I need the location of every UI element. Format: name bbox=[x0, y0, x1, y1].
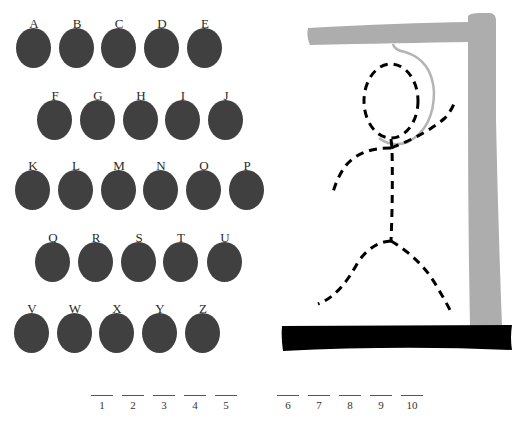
gallows-base bbox=[282, 325, 512, 351]
letter-key-p[interactable]: P bbox=[229, 159, 265, 217]
letter-key-a[interactable]: A bbox=[16, 17, 52, 75]
letter-key-u[interactable]: U bbox=[207, 231, 243, 289]
letter-key-w[interactable]: W bbox=[57, 302, 93, 360]
letter-button-disc[interactable] bbox=[143, 170, 178, 210]
letter-button-disc[interactable] bbox=[101, 28, 136, 68]
figure-right-leg bbox=[391, 241, 450, 310]
slot-number: 2 bbox=[122, 399, 144, 411]
letter-button-disc[interactable] bbox=[35, 242, 70, 282]
letter-button-disc[interactable] bbox=[207, 242, 242, 282]
figure-head bbox=[364, 64, 418, 138]
letter-key-y[interactable]: Y bbox=[142, 302, 178, 360]
word-slot-5: 5 bbox=[215, 390, 237, 416]
letter-key-z[interactable]: Z bbox=[185, 302, 221, 360]
letter-button-disc[interactable] bbox=[144, 28, 179, 68]
slot-blank-line bbox=[91, 395, 113, 396]
letter-button-disc[interactable] bbox=[58, 170, 93, 210]
slot-blank-line bbox=[401, 395, 423, 396]
slot-blank-line bbox=[370, 395, 392, 396]
letter-button-disc[interactable] bbox=[123, 100, 158, 140]
slot-number: 8 bbox=[339, 399, 361, 411]
letter-button-disc[interactable] bbox=[80, 100, 115, 140]
gallows-beam bbox=[307, 22, 470, 45]
letter-button-disc[interactable] bbox=[15, 170, 50, 210]
word-slot-4: 4 bbox=[184, 390, 206, 416]
letter-key-d[interactable]: D bbox=[144, 17, 180, 75]
letter-button-disc[interactable] bbox=[121, 242, 156, 282]
figure-left-leg bbox=[318, 241, 391, 304]
letter-key-h[interactable]: H bbox=[123, 89, 159, 147]
letter-button-disc[interactable] bbox=[59, 28, 94, 68]
letter-key-l[interactable]: L bbox=[58, 159, 94, 217]
word-slot-3: 3 bbox=[153, 390, 175, 416]
letter-key-s[interactable]: S bbox=[121, 231, 157, 289]
slot-number: 10 bbox=[401, 399, 423, 411]
letter-button-disc[interactable] bbox=[229, 170, 264, 210]
slot-blank-line bbox=[153, 395, 175, 396]
slot-number: 6 bbox=[277, 399, 299, 411]
letter-key-r[interactable]: R bbox=[78, 231, 114, 289]
letter-button-disc[interactable] bbox=[16, 28, 51, 68]
letter-button-disc[interactable] bbox=[185, 313, 220, 353]
figure-left-arm bbox=[332, 148, 391, 196]
letter-key-v[interactable]: V bbox=[14, 302, 50, 360]
slot-blank-line bbox=[215, 395, 237, 396]
slot-number: 5 bbox=[215, 399, 237, 411]
letter-button-disc[interactable] bbox=[163, 242, 198, 282]
slot-number: 4 bbox=[184, 399, 206, 411]
letter-button-disc[interactable] bbox=[187, 28, 222, 68]
slot-number: 9 bbox=[370, 399, 392, 411]
letter-button-disc[interactable] bbox=[14, 313, 49, 353]
letter-button-disc[interactable] bbox=[78, 242, 113, 282]
letter-key-q[interactable]: Q bbox=[35, 231, 71, 289]
word-slot-9: 9 bbox=[370, 390, 392, 416]
slot-number: 3 bbox=[153, 399, 175, 411]
letter-key-x[interactable]: X bbox=[99, 302, 135, 360]
letter-button-disc[interactable] bbox=[57, 313, 92, 353]
slot-blank-line bbox=[308, 395, 330, 396]
letter-button-disc[interactable] bbox=[208, 100, 243, 140]
word-slot-2: 2 bbox=[122, 390, 144, 416]
word-slot-10: 10 bbox=[401, 390, 423, 416]
letter-button-disc[interactable] bbox=[186, 170, 221, 210]
figure-right-arm bbox=[391, 101, 455, 148]
letter-key-o[interactable]: O bbox=[186, 159, 222, 217]
letter-key-k[interactable]: K bbox=[15, 159, 51, 217]
word-slot-7: 7 bbox=[308, 390, 330, 416]
slot-blank-line bbox=[122, 395, 144, 396]
word-slot-6: 6 bbox=[277, 390, 299, 416]
letter-key-e[interactable]: E bbox=[187, 17, 223, 75]
letter-key-g[interactable]: G bbox=[80, 89, 116, 147]
word-slot-8: 8 bbox=[339, 390, 361, 416]
slot-blank-line bbox=[339, 395, 361, 396]
letter-key-m[interactable]: M bbox=[101, 159, 137, 217]
gallows-post bbox=[468, 13, 502, 326]
letter-key-j[interactable]: J bbox=[208, 89, 244, 147]
letter-key-t[interactable]: T bbox=[163, 231, 199, 289]
slot-blank-line bbox=[277, 395, 299, 396]
slot-blank-line bbox=[184, 395, 206, 396]
letter-key-i[interactable]: I bbox=[165, 89, 201, 147]
slot-number: 7 bbox=[308, 399, 330, 411]
letter-button-disc[interactable] bbox=[165, 100, 200, 140]
rope bbox=[379, 44, 434, 144]
letter-button-disc[interactable] bbox=[37, 100, 72, 140]
letter-button-disc[interactable] bbox=[101, 170, 136, 210]
letter-key-b[interactable]: B bbox=[59, 17, 95, 75]
word-slot-1: 1 bbox=[91, 390, 113, 416]
slot-number: 1 bbox=[91, 399, 113, 411]
letter-button-disc[interactable] bbox=[99, 313, 134, 353]
letter-button-disc[interactable] bbox=[142, 313, 177, 353]
letter-key-n[interactable]: N bbox=[143, 159, 179, 217]
letter-key-c[interactable]: C bbox=[101, 17, 137, 75]
letter-key-f[interactable]: F bbox=[37, 89, 73, 147]
figure-body bbox=[391, 139, 392, 241]
